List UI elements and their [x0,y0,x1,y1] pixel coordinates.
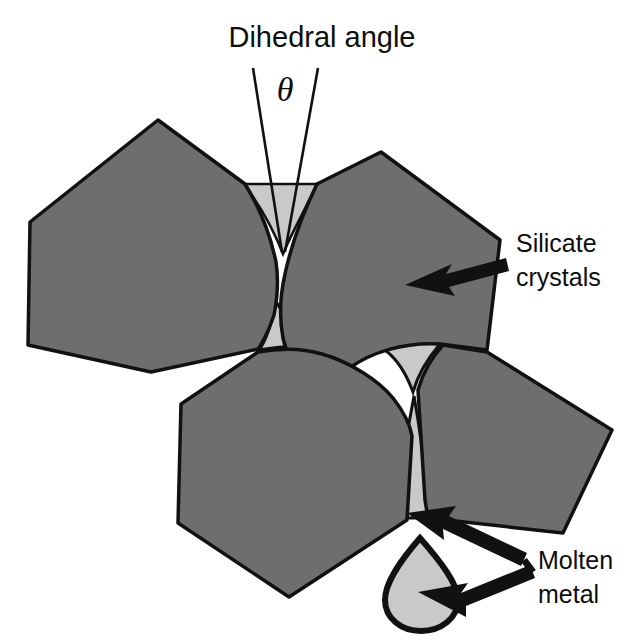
callout-silicate-crystals-line2: crystals [516,263,601,291]
callout-molten-metal-line1: Molten [538,546,613,574]
theta-symbol-label: θ [277,71,294,108]
callout-silicate-crystals-line1: Silicate [516,229,597,257]
callout-molten-metal-line2: metal [538,580,599,608]
figure-root: Dihedral angle θ Silicate crystals Molte… [0,0,644,644]
dihedral-angle-diagram: Dihedral angle θ Silicate crystals Molte… [0,0,644,644]
page-title: Dihedral angle [228,21,415,53]
